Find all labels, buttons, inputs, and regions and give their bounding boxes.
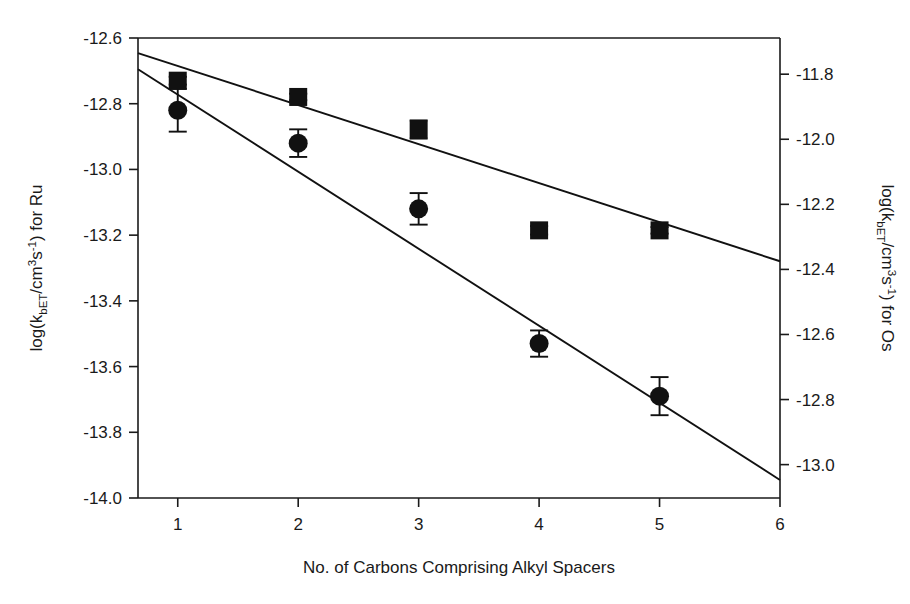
marker-square — [530, 221, 548, 239]
marker-square — [410, 120, 428, 138]
x-tick-label: 6 — [775, 515, 784, 534]
x-axis-ticks: 123456 — [173, 498, 785, 534]
left-title-s: s — [27, 251, 46, 260]
y-tick-label-left: -14.0 — [83, 489, 122, 508]
marker-circle — [530, 334, 549, 353]
y-tick-label-left: -13.4 — [83, 292, 122, 311]
data-point-ru-5 — [650, 377, 669, 415]
data-point-os-3 — [410, 120, 428, 138]
data-point-os-5 — [651, 221, 669, 239]
data-point-ru-3 — [409, 193, 428, 225]
svg-text:log(kbET/cm3s-1) for Ru: log(kbET/cm3s-1) for Ru — [26, 184, 49, 351]
y-tick-label-left: -12.8 — [83, 95, 122, 114]
plot-frame — [138, 38, 780, 498]
y-axis-left-title: log(kbET/cm3s-1) for Ru — [26, 184, 49, 351]
data-point-ru-1 — [168, 89, 187, 132]
fit-line-os — [138, 53, 780, 261]
data-point-ru-2 — [289, 129, 308, 157]
right-title-sub: bET — [875, 221, 887, 242]
data-point-ru-4 — [530, 330, 549, 356]
right-title-s: s — [878, 276, 897, 285]
marker-circle — [650, 387, 669, 406]
marker-square — [169, 72, 187, 90]
y-tick-label-right: -12.0 — [796, 130, 835, 149]
data-point-os-1 — [169, 72, 187, 90]
marker-square — [289, 88, 307, 106]
left-title-prefix: log(k — [27, 314, 46, 351]
left-title-mid: /cm — [27, 266, 46, 293]
left-title-sub: bET — [37, 294, 49, 315]
right-title-prefix: log(k — [878, 184, 897, 221]
y-tick-label-right: -11.8 — [796, 65, 834, 84]
marker-square — [651, 221, 669, 239]
x-tick-label: 3 — [414, 515, 423, 534]
y-tick-label-left: -13.8 — [83, 423, 122, 442]
y-tick-label-right: -12.4 — [796, 260, 835, 279]
y-axis-right-ticks: -11.8-12.0-12.2-12.4-12.6-12.8-13.0 — [780, 65, 835, 474]
marker-circle — [168, 101, 187, 120]
x-tick-label: 2 — [293, 515, 302, 534]
left-title-sup2: -1 — [26, 241, 38, 251]
y-tick-label-left: -13.2 — [83, 226, 122, 245]
chart-figure: -12.6-12.8-13.0-13.2-13.4-13.6-13.8-14.0… — [0, 0, 910, 604]
data-points — [168, 72, 669, 416]
fit-line-ru — [138, 69, 780, 480]
marker-circle — [409, 199, 428, 218]
y-axis-left-ticks: -12.6-12.8-13.0-13.2-13.4-13.6-13.8-14.0 — [83, 29, 138, 508]
y-axis-right-title: log(kbET/cm3s-1) for Os — [875, 184, 898, 351]
y-tick-label-right: -13.0 — [796, 456, 835, 475]
y-tick-label-left: -13.6 — [83, 358, 122, 377]
y-tick-label-right: -12.6 — [796, 325, 835, 344]
chart-canvas: -12.6-12.8-13.0-13.2-13.4-13.6-13.8-14.0… — [0, 0, 910, 604]
right-title-sup2: -1 — [886, 285, 898, 295]
data-point-os-2 — [289, 88, 307, 106]
y-tick-label-left: -13.0 — [83, 160, 122, 179]
x-tick-label: 4 — [534, 515, 543, 534]
svg-text:log(kbET/cm3s-1) for Os: log(kbET/cm3s-1) for Os — [875, 184, 898, 351]
x-tick-label: 5 — [655, 515, 664, 534]
marker-circle — [289, 134, 308, 153]
fit-lines — [138, 53, 780, 480]
right-title-suffix: ) for Os — [878, 295, 897, 352]
y-tick-label-right: -12.8 — [796, 391, 835, 410]
right-title-mid: /cm — [878, 242, 897, 269]
data-point-os-4 — [530, 221, 548, 239]
x-axis-title: No. of Carbons Comprising Alkyl Spacers — [303, 558, 615, 577]
y-tick-label-right: -12.2 — [796, 195, 835, 214]
x-tick-label: 1 — [173, 515, 182, 534]
left-title-suffix: ) for Ru — [27, 184, 46, 241]
y-tick-label-left: -12.6 — [83, 29, 122, 48]
